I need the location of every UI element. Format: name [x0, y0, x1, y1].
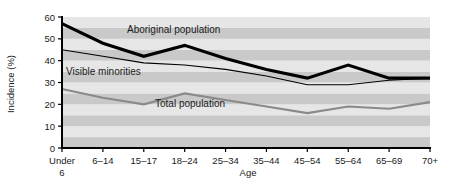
- chart-container: 0102030405060 Under66–1415–1718–2425–343…: [0, 0, 460, 187]
- x-tick-label: 65–69: [376, 155, 402, 166]
- grid-bands: [62, 17, 430, 148]
- grid-band: [62, 115, 430, 126]
- y-axis-title: Incidence (%): [5, 55, 16, 113]
- y-tick-label: 50: [44, 33, 55, 44]
- x-tick-label: 25–34: [212, 155, 238, 166]
- x-axis-title: Age: [240, 167, 257, 178]
- x-tick-label: 35–44: [253, 155, 279, 166]
- grid-band: [62, 104, 430, 115]
- y-tick-label: 0: [50, 143, 55, 154]
- x-tick-label-line2: 6: [59, 167, 64, 178]
- grid-band: [62, 137, 430, 148]
- x-tick-label: 45–54: [294, 155, 320, 166]
- y-tick-label: 30: [44, 77, 55, 88]
- series-annotation-0: Aboriginal population: [127, 24, 220, 35]
- x-tick-label: 6–14: [92, 155, 113, 166]
- grid-band: [62, 17, 430, 28]
- y-tick-label: 20: [44, 99, 55, 110]
- x-tick-label: Under: [49, 155, 75, 166]
- series-annotation-1: Visible minorities: [66, 66, 141, 77]
- y-tick-label: 10: [44, 121, 55, 132]
- x-tick-label: 15–17: [131, 155, 157, 166]
- x-tick-label: 18–24: [171, 155, 197, 166]
- grid-band: [62, 126, 430, 137]
- series-annotation-2: Total population: [155, 98, 225, 109]
- incidence-by-age-line-chart: 0102030405060 Under66–1415–1718–2425–343…: [0, 0, 460, 187]
- grid-band: [62, 28, 430, 39]
- x-tick-label: 55–64: [335, 155, 361, 166]
- x-tick-label: 70+: [422, 155, 439, 166]
- grid-band: [62, 83, 430, 94]
- y-tick-label: 60: [44, 12, 55, 23]
- y-tick-label: 40: [44, 55, 55, 66]
